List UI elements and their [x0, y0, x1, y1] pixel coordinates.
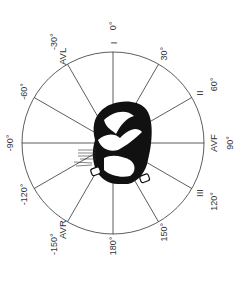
angle-label: -60°: [19, 83, 29, 100]
hexaxial-svg: IIIAVFIIIAVRAVL0°30°60°90°120°150°180°-1…: [0, 0, 242, 286]
lead-label: AVF: [208, 134, 219, 152]
angle-label: 0°: [108, 21, 118, 30]
angle-label: 150°: [160, 222, 170, 241]
angle-label: 180°: [108, 236, 118, 255]
angle-label: 30°: [160, 47, 170, 61]
angle-label: -90°: [5, 134, 15, 151]
angle-label: -150°: [50, 233, 60, 255]
lead-label: II: [194, 90, 205, 95]
angle-label: 90°: [225, 136, 235, 150]
lead-label: III: [194, 189, 205, 197]
hexaxial-diagram: IIIAVFIIIAVRAVL0°30°60°90°120°150°180°-1…: [0, 0, 242, 286]
lead-label: I: [108, 42, 119, 45]
angle-label: 60°: [209, 77, 219, 91]
angle-label: -30°: [50, 33, 60, 50]
angle-label: -120°: [19, 183, 29, 205]
angle-label: 120°: [209, 192, 219, 211]
